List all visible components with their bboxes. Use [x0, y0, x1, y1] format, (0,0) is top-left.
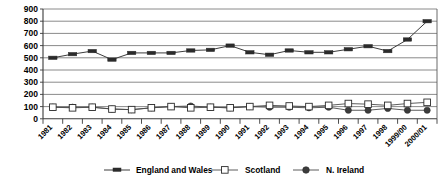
series-scotland	[50, 99, 431, 113]
legend-label-england-and-wales: England and Wales	[136, 165, 213, 175]
legend-item-scotland: Scotland	[212, 165, 280, 175]
ytick-label: 300	[24, 77, 38, 87]
xtick-label: 1986	[134, 123, 152, 141]
data-point-marker-open-square	[128, 106, 135, 113]
xtick-label: 1991	[233, 122, 252, 141]
data-point-marker-filled-circle	[365, 107, 371, 113]
data-point-marker-open-square	[89, 104, 96, 111]
data-point-marker-open-square	[266, 102, 273, 109]
data-point-marker-open-square	[207, 104, 214, 111]
plot-frame	[43, 9, 437, 119]
ytick-label: 200	[24, 89, 38, 99]
xtick-label: 1996	[331, 123, 349, 141]
data-point-marker-filled-rectangle	[68, 52, 76, 55]
legend-label-n-ireland: N. Ireland	[326, 165, 364, 175]
data-point-marker-filled-circle	[345, 107, 351, 113]
ytick-label: 400	[24, 65, 38, 75]
data-point-marker-open-square	[306, 103, 313, 110]
data-point-marker-open-square	[50, 104, 57, 111]
data-point-marker-filled-rectangle	[49, 56, 57, 59]
ytick-label: 900	[24, 4, 38, 14]
series-line	[53, 21, 427, 59]
data-point-marker-open-square	[345, 100, 352, 107]
xtick-label: 1989	[194, 123, 212, 141]
xtick-label: 1995	[312, 122, 331, 141]
data-point-marker-filled-rectangle	[324, 51, 332, 54]
data-point-marker-filled-rectangle	[265, 53, 273, 56]
ytick-label: 600	[24, 41, 38, 51]
data-point-marker-filled-rectangle	[147, 51, 155, 54]
data-point-marker-filled-rectangle	[206, 48, 214, 51]
data-point-marker-filled-rectangle	[285, 49, 293, 52]
xtick-label: 1990	[213, 123, 231, 141]
xtick-label: 1983	[75, 123, 93, 141]
legend-label-scotland: Scotland	[245, 165, 280, 175]
chart-canvas: 900 800 700 600 500 400 300 200 100 0	[0, 0, 442, 182]
data-point-marker-filled-rectangle	[423, 20, 431, 23]
x-axis-tickmarks	[43, 119, 437, 124]
xtick-label: 1993	[272, 123, 290, 141]
data-point-marker-open-square	[247, 103, 254, 110]
xtick-label: 1982	[56, 123, 74, 141]
legend: England and Wales Scotland N. Ireland	[104, 165, 364, 175]
data-point-marker-open-square	[109, 106, 116, 113]
data-point-marker-filled-rectangle	[305, 51, 313, 54]
line-chart: 900 800 700 600 500 400 300 200 100 0	[0, 0, 442, 182]
data-point-marker-open-square	[424, 99, 431, 106]
data-point-marker-filled-rectangle	[364, 45, 372, 48]
ytick-label: 100	[24, 102, 38, 112]
data-point-marker-open-square	[325, 102, 332, 109]
data-point-marker-open-square	[365, 101, 372, 108]
xtick-label: 1985	[115, 122, 134, 141]
data-point-marker-open-square	[148, 105, 155, 112]
data-point-marker-open-square	[384, 102, 391, 109]
legend-marker-filled-rectangle	[113, 168, 121, 171]
xtick-label: 1987	[154, 123, 172, 141]
y-axis-tick-labels: 900 800 700 600 500 400 300 200 100 0	[24, 4, 38, 124]
xtick-label: 2000/01	[403, 122, 429, 148]
data-point-marker-filled-circle	[404, 107, 410, 113]
legend-marker-open-square	[222, 167, 229, 174]
x-axis-tick-labels: 1981198219831984198519861987198819891990…	[36, 122, 429, 148]
data-point-marker-filled-rectangle	[246, 51, 254, 54]
xtick-label: 1988	[174, 123, 192, 141]
xtick-label: 1997	[351, 123, 369, 141]
data-point-marker-filled-rectangle	[226, 44, 234, 47]
xtick-label: 1981	[36, 122, 55, 141]
data-point-marker-filled-circle	[424, 107, 430, 113]
legend-item-n-ireland: N. Ireland	[293, 165, 364, 175]
data-point-marker-filled-rectangle	[187, 49, 195, 52]
ytick-label: 700	[24, 28, 38, 38]
data-point-marker-filled-rectangle	[384, 49, 392, 52]
data-point-marker-open-square	[286, 103, 293, 110]
ytick-label: 0	[33, 114, 38, 124]
data-point-marker-filled-rectangle	[88, 49, 96, 52]
ytick-label: 800	[24, 16, 38, 26]
data-point-marker-open-square	[227, 105, 234, 112]
data-point-marker-filled-rectangle	[127, 51, 135, 54]
xtick-label: 1984	[95, 122, 114, 141]
data-point-marker-filled-rectangle	[344, 48, 352, 51]
data-point-marker-open-square	[404, 100, 411, 107]
data-point-marker-filled-rectangle	[403, 38, 411, 41]
series-england-and-wales	[49, 20, 432, 62]
legend-item-england-and-wales: England and Wales	[104, 165, 213, 175]
xtick-label: 1994	[292, 122, 311, 141]
gridlines	[43, 9, 437, 107]
ytick-label: 500	[24, 53, 38, 63]
data-point-marker-filled-rectangle	[167, 51, 175, 54]
xtick-label: 1992	[253, 123, 271, 141]
data-point-marker-open-square	[69, 105, 76, 112]
data-point-marker-open-square	[168, 103, 175, 110]
data-point-marker-open-square	[187, 105, 194, 112]
data-point-marker-filled-rectangle	[108, 58, 116, 61]
legend-marker-filled-circle	[303, 167, 310, 174]
